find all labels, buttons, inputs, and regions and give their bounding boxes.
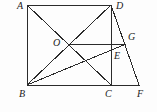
- vertex-label-o: O: [53, 38, 60, 48]
- vertex-label-d: D: [116, 1, 123, 11]
- segment-DF: [111, 5, 139, 85]
- geometry-figure: ADBCFOGE: [0, 0, 157, 112]
- vertex-label-g: G: [128, 32, 135, 42]
- segment-OG: [69, 44, 126, 45]
- vertex-label-c: C: [105, 89, 112, 99]
- vertex-label-f: F: [137, 89, 143, 99]
- vertex-label-b: B: [19, 89, 25, 99]
- vertex-label-a: A: [17, 1, 23, 11]
- vertex-label-e: E: [114, 51, 120, 61]
